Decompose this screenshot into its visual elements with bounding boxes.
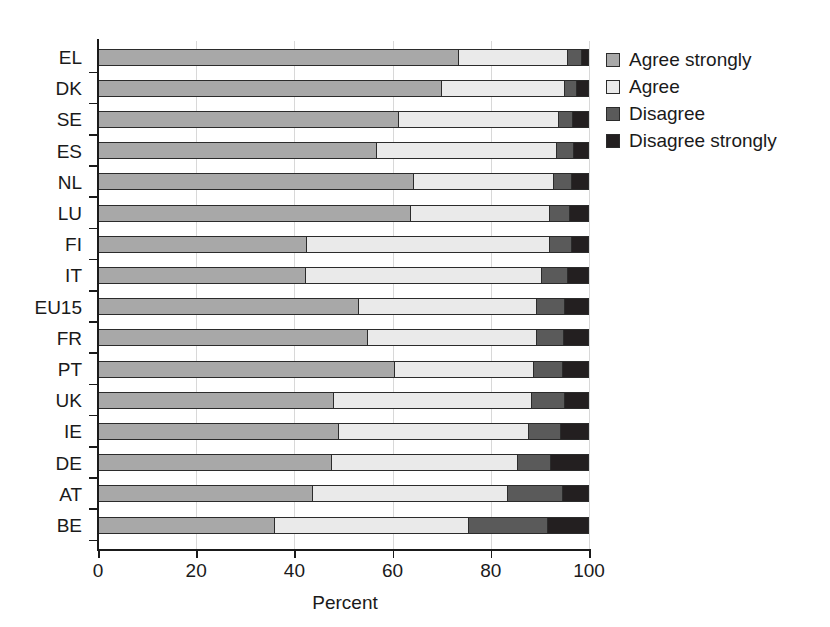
x-axis-line	[97, 549, 590, 551]
bar-segment	[528, 423, 560, 440]
bar-segment	[98, 298, 358, 315]
bar-segment	[567, 267, 589, 284]
y-tick-el	[89, 72, 98, 74]
y-tick-de	[89, 477, 98, 479]
category-label-fi: FI	[65, 235, 82, 254]
y-tick-be	[89, 540, 98, 542]
category-label-uk: UK	[56, 391, 82, 410]
y-tick-nl	[89, 196, 98, 198]
y-tick-at	[89, 508, 98, 510]
bar-segment	[576, 80, 589, 97]
legend-swatch-icon	[606, 80, 620, 94]
bar-segment	[536, 329, 563, 346]
x-tick-0	[98, 549, 100, 558]
category-label-it: IT	[65, 266, 82, 285]
y-tick-eu15	[89, 321, 98, 323]
y-tick-it	[89, 290, 98, 292]
bar-segment	[98, 361, 394, 378]
y-tick-fi	[89, 259, 98, 261]
chart-figure: Percent Agree stronglyAgreeDisagreeDisag…	[0, 0, 830, 627]
category-label-es: ES	[57, 142, 82, 161]
category-label-lu: LU	[58, 204, 82, 223]
y-tick-se	[89, 134, 98, 136]
bar-segment	[571, 236, 589, 253]
bar-segment	[562, 361, 589, 378]
bar-segment	[567, 49, 580, 66]
x-tick-label-60: 60	[382, 561, 403, 580]
y-tick-dk	[89, 103, 98, 105]
y-tick-uk	[89, 415, 98, 417]
legend-label: Disagree strongly	[629, 131, 777, 150]
bar-segment	[305, 267, 541, 284]
x-tick-60	[393, 549, 395, 558]
legend-label: Disagree	[629, 104, 705, 123]
bar-segment	[394, 361, 532, 378]
bar-segment	[549, 236, 571, 253]
x-tick-40	[294, 549, 296, 558]
x-tick-label-80: 80	[480, 561, 501, 580]
x-tick-label-100: 100	[573, 561, 605, 580]
bar-segment	[563, 329, 589, 346]
bar-segment	[564, 392, 589, 409]
bar-segment	[550, 454, 589, 471]
bar-segment	[541, 267, 568, 284]
bar-row	[98, 111, 589, 128]
x-tick-label-0: 0	[93, 561, 104, 580]
bar-segment	[558, 111, 572, 128]
x-tick-100	[589, 549, 591, 558]
bar-segment	[312, 485, 507, 502]
x-tick-80	[491, 549, 493, 558]
plot-area	[98, 41, 589, 549]
bar-row	[98, 236, 589, 253]
bar-row	[98, 361, 589, 378]
bar-segment	[441, 80, 564, 97]
bar-segment	[98, 392, 333, 409]
category-label-se: SE	[57, 110, 82, 129]
category-label-dk: DK	[56, 79, 82, 98]
bar-segment	[507, 485, 562, 502]
bar-segment	[98, 454, 331, 471]
category-label-pt: PT	[58, 360, 82, 379]
bar-segment	[410, 205, 549, 222]
category-label-fr: FR	[57, 329, 82, 348]
x-tick-label-40: 40	[284, 561, 305, 580]
bar-segment	[98, 111, 398, 128]
legend-swatch-icon	[606, 107, 620, 121]
bar-segment	[573, 142, 589, 159]
bar-row	[98, 267, 589, 284]
bar-row	[98, 205, 589, 222]
bar-segment	[98, 205, 410, 222]
legend-item-disagree-strongly: Disagree strongly	[606, 127, 777, 154]
category-label-nl: NL	[58, 173, 82, 192]
legend-item-disagree: Disagree	[606, 100, 777, 127]
bar-segment	[517, 454, 550, 471]
chart-legend: Agree stronglyAgreeDisagreeDisagree stro…	[606, 46, 777, 154]
bar-segment	[569, 205, 589, 222]
bar-segment	[560, 423, 589, 440]
legend-label: Agree strongly	[629, 50, 752, 69]
bar-segment	[98, 49, 458, 66]
bar-segment	[367, 329, 536, 346]
bar-row	[98, 329, 589, 346]
bar-segment	[458, 49, 567, 66]
bar-segment	[98, 236, 306, 253]
bar-segment	[98, 329, 367, 346]
bar-segment	[564, 80, 576, 97]
bar-segment	[572, 111, 589, 128]
category-label-at: AT	[59, 485, 82, 504]
bar-segment	[571, 173, 589, 190]
bar-segment	[98, 142, 376, 159]
bar-row	[98, 298, 589, 315]
legend-item-agree: Agree	[606, 73, 777, 100]
bar-segment	[331, 454, 517, 471]
x-axis-title: Percent	[0, 592, 690, 614]
y-tick-pt	[89, 384, 98, 386]
bar-segment	[553, 173, 572, 190]
bar-segment	[98, 423, 338, 440]
x-tick-20	[196, 549, 198, 558]
bar-row	[98, 392, 589, 409]
bar-row	[98, 173, 589, 190]
bar-segment	[549, 205, 569, 222]
bar-segment	[98, 485, 312, 502]
category-label-ie: IE	[64, 422, 82, 441]
